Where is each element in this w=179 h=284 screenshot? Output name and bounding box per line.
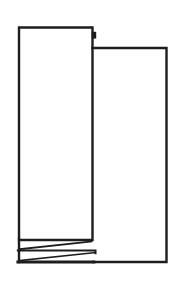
figure-canvas <box>0 0 179 284</box>
lower-thread-diagonal <box>20 253 96 261</box>
left-panel-outline <box>19 28 93 241</box>
right-panel-outline <box>93 48 167 262</box>
thread-band-middle-line <box>18 251 96 254</box>
technical-line-drawing <box>0 0 179 284</box>
top-step-notch <box>92 32 96 39</box>
upper-thread-diagonal <box>20 241 92 249</box>
